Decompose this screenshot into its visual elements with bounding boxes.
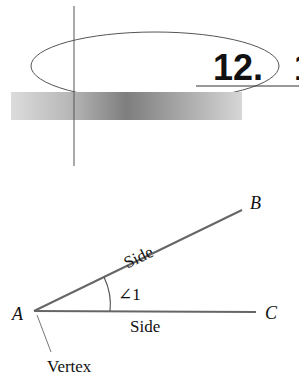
point-c-label: C [265, 303, 278, 323]
angle-arc [104, 277, 110, 311]
vertex-label: Vertex [47, 357, 92, 376]
side-upper-label: Side [121, 242, 157, 272]
angle-diagram: A B C Side Side ∠1 Vertex [11, 193, 278, 376]
side-lower-label: Side [130, 317, 160, 336]
chapter-number: 12. [213, 47, 263, 88]
point-a-label: A [11, 304, 24, 324]
ray-ac [34, 311, 256, 312]
chapter-header-decoration: 12. 1 [11, 6, 299, 166]
header-gradient-bar [11, 92, 242, 120]
angle-1-label: ∠1 [118, 285, 141, 304]
chapter-number-next: 1 [294, 47, 299, 88]
vertex-pointer-line [37, 315, 51, 352]
page-canvas: 12. 1 A B C Side Side ∠1 Vertex [0, 0, 299, 392]
point-b-label: B [250, 193, 261, 213]
